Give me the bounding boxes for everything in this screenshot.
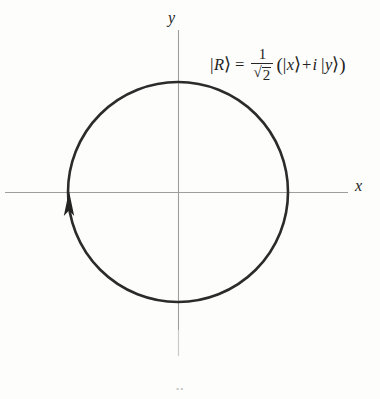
imaginary-unit: i [312,57,317,74]
ket-y: | y ⟩ [321,56,339,74]
ket-y-open-bar: | [321,56,325,74]
ket-x: | x ⟩ [283,56,301,74]
ket-R: | R ⟩ [210,56,231,74]
sqrt-radicand: 2 [262,67,272,83]
group-close-paren: ) [339,55,345,74]
polarization-figure: y x | R ⟩ = 1 √ 2 ( | x ⟩ + i | y ⟩ [0,0,380,399]
equals-sign: = [235,57,244,74]
ket-R-close-angle: ⟩ [224,56,231,74]
ket-x-close-angle: ⟩ [294,56,301,74]
ket-x-symbol: x [287,57,294,74]
one-over-sqrt-two: 1 √ 2 [251,47,273,83]
fraction-numerator: 1 [256,47,270,63]
ket-R-open-bar: | [210,56,214,74]
sqrt-icon: √ [254,65,262,80]
fraction-denominator: √ 2 [252,64,274,83]
ket-y-symbol: y [325,57,332,74]
x-axis-label: x [355,178,362,194]
plus-sign: + [302,57,311,74]
ket-y-close-angle: ⟩ [332,56,339,74]
y-axis-label: y [168,10,175,26]
scan-artifact: •• [176,386,189,393]
state-equation: | R ⟩ = 1 √ 2 ( | x ⟩ + i | y ⟩ ) [210,47,346,83]
scan-artifact-mark: •• [176,386,189,393]
ket-x-open-bar: | [283,56,287,74]
ket-R-symbol: R [214,57,224,74]
